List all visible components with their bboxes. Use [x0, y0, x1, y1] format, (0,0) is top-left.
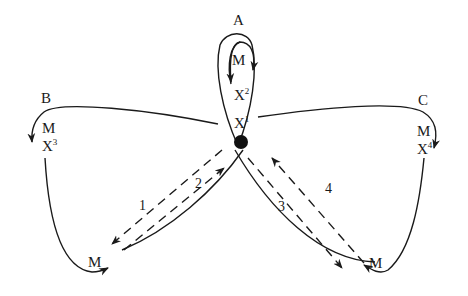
center-x-text: X: [234, 115, 245, 131]
dashed-path-4: [272, 158, 364, 263]
dashed-path-1: [112, 150, 222, 244]
arc-center-to-c: [258, 106, 436, 148]
node-c-x-label: X4: [417, 142, 432, 157]
path-2-label: 2: [195, 177, 202, 191]
node-b-label: B: [41, 91, 51, 106]
bottom-right-m-label: M: [369, 256, 382, 271]
arc-center-to-b: [32, 107, 218, 142]
node-a-label: A: [233, 13, 244, 28]
path-3-label: 3: [278, 200, 285, 214]
node-a-x-text: X: [234, 87, 245, 103]
node-b-x-text: X: [42, 138, 53, 154]
node-c-x-text: X: [417, 141, 428, 157]
path-4-label: 4: [325, 182, 332, 196]
center-node-dot: [234, 135, 248, 149]
node-c-label: C: [418, 93, 428, 108]
path-1-label: 1: [139, 199, 146, 213]
node-a-x-label: X2: [234, 88, 249, 103]
node-b-m-label: M: [42, 121, 55, 136]
center-x-label: X1: [234, 116, 249, 131]
node-a-m-label: M: [232, 53, 245, 68]
line-x1-to-bottom-right: [235, 150, 375, 262]
node-c-m-label: M: [417, 124, 430, 139]
node-b-x-label: X3: [42, 139, 57, 154]
diagram-canvas: [0, 0, 468, 296]
center-x-sup: 1: [245, 114, 250, 124]
node-b-x-sup: 3: [53, 137, 58, 147]
node-c-x-sup: 4: [428, 140, 433, 150]
bottom-left-m-label: M: [88, 255, 101, 270]
dashed-path-3: [248, 158, 342, 268]
node-a-x-sup: 2: [245, 86, 250, 96]
